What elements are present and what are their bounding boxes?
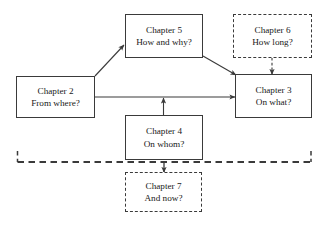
edge-chapter2-to-chapter5 bbox=[95, 45, 124, 76]
node-chapter4-subtitle: On whom? bbox=[144, 138, 185, 150]
node-chapter7-subtitle: And now? bbox=[144, 192, 182, 204]
node-chapter3[interactable]: Chapter 3 On what? bbox=[235, 74, 312, 118]
node-chapter7[interactable]: Chapter 7 And now? bbox=[125, 172, 202, 212]
node-chapter3-title: Chapter 3 bbox=[256, 84, 292, 96]
node-chapter2[interactable]: Chapter 2 From where? bbox=[16, 76, 95, 118]
node-chapter5-subtitle: How and why? bbox=[136, 36, 192, 48]
node-chapter7-title: Chapter 7 bbox=[146, 180, 182, 192]
node-chapter4[interactable]: Chapter 4 On whom? bbox=[125, 115, 203, 160]
node-chapter3-subtitle: On what? bbox=[256, 96, 291, 108]
node-chapter6[interactable]: Chapter 6 How long? bbox=[233, 14, 312, 58]
node-chapter5-title: Chapter 5 bbox=[146, 24, 182, 36]
node-chapter2-title: Chapter 2 bbox=[38, 85, 74, 97]
node-chapter2-subtitle: From where? bbox=[31, 97, 80, 109]
node-chapter5[interactable]: Chapter 5 How and why? bbox=[125, 14, 203, 58]
edge-chapter5-to-chapter3 bbox=[203, 56, 236, 75]
node-chapter4-title: Chapter 4 bbox=[146, 125, 182, 137]
node-chapter6-title: Chapter 6 bbox=[255, 24, 291, 36]
diagram-canvas: Chapter 2 From where? Chapter 5 How and … bbox=[0, 0, 323, 231]
node-chapter6-subtitle: How long? bbox=[252, 36, 293, 48]
